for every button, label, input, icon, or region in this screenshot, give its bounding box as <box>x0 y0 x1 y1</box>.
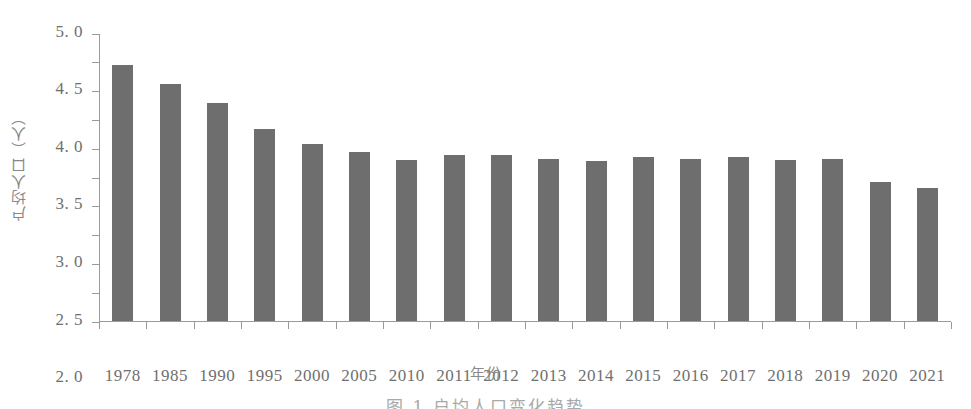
y-axis-tick: 0. 0 <box>92 322 99 323</box>
bar <box>491 155 512 321</box>
bar <box>302 144 323 321</box>
x-axis-tick <box>478 322 479 329</box>
y-axis-tick-label: 5. 0 <box>56 22 84 42</box>
y-axis-title-text: 户均人口（人） <box>8 109 29 221</box>
x-axis-tick <box>951 322 952 329</box>
plot-area: 0. 00. 51. 01. 52. 02. 53. 03. 54. 04. 5… <box>99 34 951 322</box>
x-axis-tick <box>525 322 526 329</box>
bar <box>633 157 654 321</box>
y-axis-tick: 4. 0 <box>92 91 99 92</box>
y-axis-tick: 1. 5 <box>92 235 99 236</box>
bar <box>728 157 749 321</box>
bar <box>538 159 559 321</box>
y-axis-tick: 1. 0 <box>92 264 99 265</box>
bar <box>207 103 228 321</box>
bar <box>775 160 796 321</box>
y-axis-tick-label: 4. 0 <box>56 137 84 157</box>
x-axis-tick <box>383 322 384 329</box>
bar <box>160 84 181 321</box>
y-axis-tick: 2. 5 <box>92 178 99 179</box>
y-axis-tick: 5. 0 <box>92 34 99 35</box>
x-axis-tick <box>572 322 573 329</box>
y-axis-tick: 3. 0 <box>92 149 99 150</box>
y-axis-line <box>99 34 100 322</box>
x-axis-tick <box>99 322 100 329</box>
bar <box>444 155 465 321</box>
x-axis-tick <box>288 322 289 329</box>
y-axis-tick: 0. 5 <box>92 293 99 294</box>
x-axis-tick <box>194 322 195 329</box>
y-axis-tick-label: 3. 5 <box>56 195 84 215</box>
bar <box>349 152 370 321</box>
x-axis-tick <box>762 322 763 329</box>
bar <box>870 182 891 321</box>
bar <box>586 161 607 321</box>
x-axis-tick <box>336 322 337 329</box>
y-axis-tick-label: 2. 5 <box>56 310 84 330</box>
x-axis-tick <box>146 322 147 329</box>
x-axis-title-text: 年份 <box>470 365 502 383</box>
x-axis-tick <box>809 322 810 329</box>
x-axis-tick <box>241 322 242 329</box>
x-axis-tick <box>904 322 905 329</box>
y-axis-tick: 2. 0 <box>92 206 99 207</box>
y-axis-tick-label: 4. 5 <box>56 79 84 99</box>
y-axis-title: 户均人口（人） <box>4 0 32 330</box>
figure-caption-text: 图 1 户均人口变化趋势 <box>386 397 585 409</box>
x-axis-tick <box>620 322 621 329</box>
bar <box>822 159 843 321</box>
bar <box>917 188 938 321</box>
figure-caption: 图 1 户均人口变化趋势 <box>0 393 971 409</box>
x-axis-tick <box>714 322 715 329</box>
bar <box>396 160 417 321</box>
x-axis-tick <box>667 322 668 329</box>
y-axis-tick: 4. 5 <box>92 62 99 63</box>
bar <box>112 65 133 321</box>
y-axis-tick: 3. 5 <box>92 120 99 121</box>
y-axis-tick-label: 3. 0 <box>56 252 84 272</box>
bar <box>254 129 275 321</box>
x-axis-title: 年份 <box>0 362 971 383</box>
x-axis-tick <box>856 322 857 329</box>
bar <box>680 159 701 321</box>
figure-container: 户均人口（人） 0. 00. 51. 01. 52. 02. 53. 03. 5… <box>0 0 971 409</box>
x-axis-tick <box>430 322 431 329</box>
